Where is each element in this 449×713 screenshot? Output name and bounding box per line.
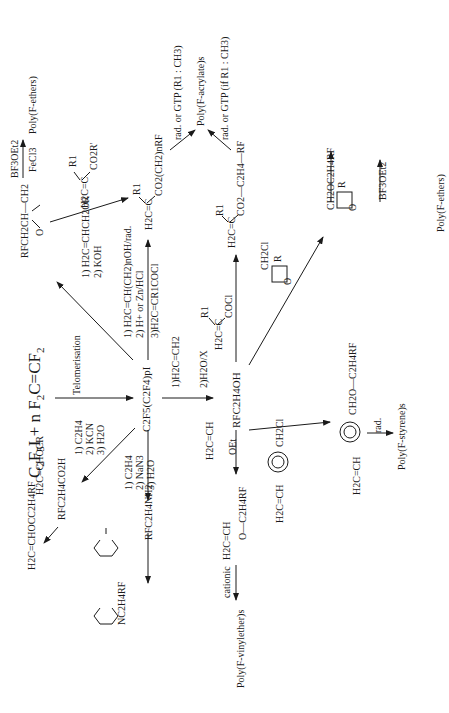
acrylate2-r1: R1 — [214, 204, 225, 216]
styrene-reagent-vinyl: H2C=CH — [274, 485, 285, 523]
styrene-reagent-ring-inner — [272, 456, 284, 468]
telomerisation-label: Telomerisation — [71, 335, 82, 395]
epoxide-ring — [32, 205, 40, 228]
acrylate1-condition-1: 1) H2C=CH(CH2)nOH/rad. — [122, 226, 134, 338]
acrylate1-condition-2: 2) H+ or Zn/HCl — [134, 270, 146, 338]
alcohol: RFC2H4OH — [230, 372, 242, 428]
bf3-label: BF3OEt2 — [9, 140, 20, 178]
acrylate1-r1: R1 — [131, 183, 142, 195]
poly-f-ethers-1: Poly(F-ethers) — [27, 76, 39, 134]
styrene-product-ring-inner — [344, 426, 356, 438]
styrene-product-vinyl: H2C=CH — [351, 457, 362, 495]
oxetane-product-oxygen: O — [347, 204, 358, 211]
acyl-chloride-right: COCl — [223, 294, 234, 318]
acrylate1-condition-3: 3)H2C=CR1COCl — [149, 263, 161, 338]
amine-product: RFC2H4NH2 — [143, 484, 154, 540]
acrylate-reagent-r1: R1 — [67, 155, 78, 167]
epoxide-condition-2: 2) KOH — [92, 246, 104, 279]
rad-label: rad. — [372, 418, 383, 433]
vinylether-product-top: H2C=CH — [221, 522, 232, 560]
alcohol-condition-1: 1)H2C=CH2 — [170, 336, 182, 388]
vinylether-product-o: O—C2H4RF — [237, 486, 248, 540]
oxetane-product-r: R — [336, 181, 347, 188]
reaction-scheme: C2F5I + n F2C=CF2 Telomerisation C2F5(C2… — [0, 0, 449, 713]
oxetane-ch2cl: CH2Cl — [259, 241, 270, 270]
vinyl-ester-product: H2C=CHOCC2H4RF — [26, 481, 37, 570]
acid-product: RFC2H4CO2H — [56, 458, 67, 520]
acrylate2-poly-condition: rad. or GTP (if R1 : CH3) — [219, 37, 231, 140]
acrylate2-right: CO2—C2H4—RF — [235, 141, 246, 216]
imide-product: NC2H4RF — [116, 581, 127, 625]
acid-to-ester-arrow — [44, 527, 58, 543]
styrene-reagent-ch2cl: CH2Cl — [274, 418, 285, 447]
alcohol-to-styrene-arrow — [249, 422, 330, 430]
alcohol-condition-2: 2)H2O/X — [198, 349, 210, 388]
styrene-product-ring — [340, 422, 360, 442]
oxetane-r: R — [272, 255, 283, 262]
fecl3-label: FeCl3 — [27, 148, 38, 172]
styrene-reagent-ring — [268, 452, 288, 472]
acrylate1-poly-condition: rad. or GTP (R1 : CH3) — [172, 45, 184, 140]
poly-f-ethers-2: Poly(F-ethers) — [435, 174, 447, 232]
poly-acrylates: Poly(F-acrylate)s — [195, 56, 207, 126]
telomer: C2F5(C2F4)pI — [140, 366, 153, 432]
maleimide-ring — [94, 608, 118, 624]
poly-vinylethers: Poly(F-vinylether)s — [235, 610, 247, 688]
cationic-label: cationic — [221, 566, 232, 598]
poly-styrenes: Poly(F-styrene)s — [396, 403, 408, 470]
acrylate-reagent-right: CO2R' — [88, 142, 99, 170]
epoxide-oxygen: O — [34, 229, 45, 236]
oxetane-product-sub: CH2OC2H4RF — [325, 147, 336, 210]
maleic-anhydride-ring — [94, 540, 118, 556]
vinyl-reagent-oet: OEt — [227, 439, 238, 455]
epoxide-product: RFCH2CH—CH2 — [19, 184, 30, 258]
acyl-chloride-r1: R1 — [199, 306, 210, 318]
styrene-product-sub: CH2O—C2H4RF — [347, 342, 358, 415]
acid-condition-3: 3) H2O — [95, 425, 107, 455]
acrylate-reagent-left: H2C=C — [79, 176, 90, 208]
oxetane-oxygen: O — [282, 278, 293, 285]
vinyl-reagent-top: H2C=CH — [204, 422, 215, 460]
acrylate1-right: CO2(CH2)nRF — [153, 134, 165, 196]
bf3-label-2: BF3OEt2 — [377, 162, 388, 200]
